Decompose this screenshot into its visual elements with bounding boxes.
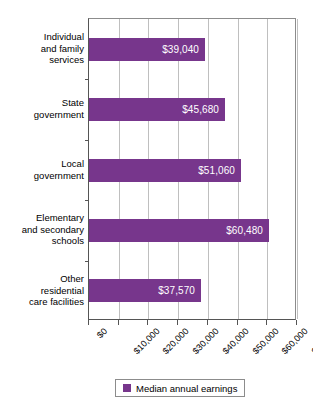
bar-row: $39,040 (89, 38, 205, 61)
bar-row: $60,480 (89, 219, 269, 242)
category-label-line: and family (0, 43, 84, 55)
plot-area: $39,040$45,680$51,060$60,480$37,570 (88, 18, 296, 320)
bar: $51,060 (89, 159, 241, 182)
category-label-line: and secondary (0, 224, 84, 236)
category-label-line: residential (0, 285, 84, 297)
x-axis-tick-label: $20,000 (161, 326, 191, 356)
bar-row: $45,680 (89, 98, 225, 121)
category-label-line: care facilities (0, 296, 84, 308)
bar: $60,480 (89, 219, 269, 242)
x-axis-tick (88, 320, 89, 325)
category-label-line: Elementary (0, 212, 84, 224)
legend-label: Median annual earnings (136, 383, 237, 394)
bar-value-label: $37,570 (158, 285, 201, 296)
y-axis-tick (85, 261, 89, 262)
x-axis-tick-label: $50,000 (251, 326, 281, 356)
y-axis-tick (85, 79, 89, 80)
category-label-line: schools (0, 235, 84, 247)
x-axis-tick (177, 320, 178, 325)
legend-swatch-icon (123, 384, 131, 392)
category-label: Elementaryand secondaryschools (0, 212, 84, 247)
category-label-line: services (0, 54, 84, 66)
category-label: Otherresidentialcare facilities (0, 273, 84, 308)
category-axis-labels: Individualand familyservicesStategovernm… (0, 18, 84, 320)
x-axis-tick-label: $30,000 (191, 326, 221, 356)
gridline (297, 19, 298, 319)
bar-value-label: $39,040 (162, 44, 205, 55)
bar: $45,680 (89, 98, 225, 121)
x-axis-tick-labels: $0$10,000$20,000$30,000$40,000$50,000$60… (88, 326, 297, 372)
category-label: Stategovernment (0, 97, 84, 120)
category-label-line: Other (0, 273, 84, 285)
x-axis-tick-label: $40,000 (221, 326, 251, 356)
bar-row: $51,060 (89, 159, 241, 182)
bar: $39,040 (89, 38, 205, 61)
category-label-line: Individual (0, 31, 84, 43)
x-axis-tick (237, 320, 238, 325)
category-label: Individualand familyservices (0, 31, 84, 66)
x-axis-tick-label: $60,000 (280, 326, 310, 356)
x-axis-tick-label: $70,000 (310, 326, 313, 356)
category-label-line: State (0, 97, 84, 109)
category-label-line: government (0, 109, 84, 121)
bar-value-label: $45,680 (182, 104, 225, 115)
x-axis-tick (207, 320, 208, 325)
bars-layer: $39,040$45,680$51,060$60,480$37,570 (89, 19, 295, 319)
x-axis-tick (118, 320, 119, 325)
bar: $37,570 (89, 279, 201, 302)
category-label-line: Local (0, 158, 84, 170)
category-label-line: government (0, 170, 84, 182)
x-axis-tick-label: $0 (95, 326, 109, 340)
y-axis-tick (85, 200, 89, 201)
bar-row: $37,570 (89, 279, 201, 302)
bar-chart: Individualand familyservicesStategovernm… (0, 0, 313, 404)
x-axis-tick (296, 320, 297, 325)
x-axis-tick (266, 320, 267, 325)
bar-value-label: $51,060 (198, 165, 241, 176)
chart-legend: Median annual earnings (115, 379, 245, 397)
x-axis-tick (147, 320, 148, 325)
bar-value-label: $60,480 (226, 225, 269, 236)
category-label: Localgovernment (0, 158, 84, 181)
x-axis-tick-label: $10,000 (132, 326, 162, 356)
y-axis-tick (85, 140, 89, 141)
